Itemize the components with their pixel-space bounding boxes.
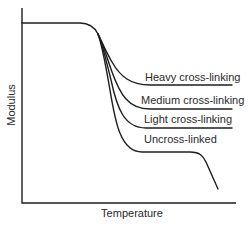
label-heavy: Heavy cross-linking xyxy=(145,71,240,83)
label-uncross-linked: Uncross-linked xyxy=(144,133,217,145)
y-axis-label: Modulus xyxy=(5,84,17,126)
modulus-temperature-diagram: Heavy cross-linking Medium cross-linking… xyxy=(0,0,248,226)
label-medium: Medium cross-linking xyxy=(141,94,244,106)
label-light: Light cross-linking xyxy=(144,113,232,125)
glassy-plateau xyxy=(22,23,98,34)
curve-uncross-linked xyxy=(98,34,218,189)
x-axis-label: Temperature xyxy=(101,207,163,219)
